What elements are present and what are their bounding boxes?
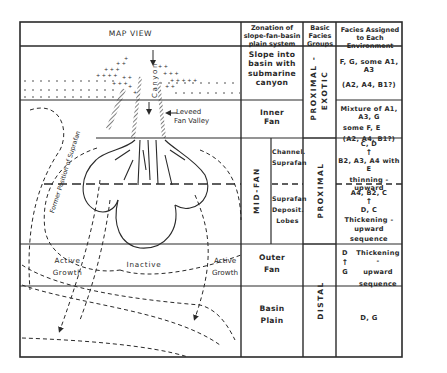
svg-text:+: + (133, 89, 137, 95)
svg-text:+: + (124, 55, 128, 61)
up-arrow-icon: ↑ (337, 197, 401, 206)
inactive-label: Inactive (124, 260, 164, 269)
svg-text:+ +: + + (122, 74, 132, 80)
facies-channel-top: C, D (337, 140, 401, 148)
zone-inner-fan-line: Fan (243, 117, 301, 126)
zone-lobes-line: Lobes (272, 217, 303, 225)
zone-basin-line: Basin (243, 304, 301, 313)
zone-inner-fan-line: Inner (243, 108, 301, 117)
facies-inner-line: Mixture of A1, A3, G (337, 105, 401, 121)
facies-lobes-mid: D, C (337, 206, 401, 214)
facies-inner-fan: Mixture of A1, A3, G some F, E (A2, A4, … (337, 105, 401, 143)
group-proximal-exotic-1: PROXIMAL - (309, 61, 318, 121)
zone-slope: Slope into basin with submarine canyon (243, 50, 301, 88)
facies-basin: D, G (337, 314, 401, 322)
zone-slope-line: submarine (243, 69, 301, 78)
facies-slope: F, G, some A1, A3 (A2, A4, B1?) (337, 58, 401, 89)
facies-outer-text: sequence (355, 280, 401, 288)
facies-lobes-bottom: Thickening - upward (337, 216, 401, 232)
facies-inner-line: some F, E (337, 124, 401, 132)
facies-lobes-top: A4, B2, C (337, 189, 401, 197)
svg-text:+ + +: + + + (112, 80, 128, 86)
canyon-label: Canyon (151, 60, 159, 100)
facies-channel: C, D ↑ B2, A3, A4 with E thinning - upwa… (337, 140, 401, 192)
facies-outer-letter: D (339, 249, 351, 257)
group-proximal: PROXIMAL (316, 161, 325, 221)
up-arrow-icon: ↑ (339, 257, 351, 268)
facies-outer-left: D ↑ G (339, 249, 351, 276)
zone-outer-fan: Outer Fan (243, 253, 301, 275)
zone-lobes-line: Deposit. (272, 206, 303, 214)
facies-lobes-bottom: sequence (337, 235, 401, 243)
group-distal: DISTAL (316, 271, 325, 331)
active-growth-right-2: Growth (209, 268, 241, 277)
facies-outer-text: Thickening - (355, 249, 401, 265)
svg-text:+: + (128, 83, 132, 89)
zone-suprafan-lobes: Suprafan Deposit. Lobes (272, 195, 303, 225)
facies-assigned-heading: Facies Assigned to Each Environment (340, 26, 400, 50)
facies-groups-heading: Basic Facies Groups (304, 24, 336, 48)
up-arrow-icon: ↑ (337, 148, 401, 157)
map-view-heading: MAP VIEW (20, 29, 241, 38)
zone-lobes-line: Suprafan (272, 195, 303, 203)
facies-outer-letter: G (339, 268, 351, 276)
svg-text:+ + + +: + + + + (96, 72, 118, 78)
svg-text:+ + +: + + + (163, 70, 179, 76)
zonation-heading: Zonation of slope-fan-basin plain system (243, 24, 301, 48)
svg-text:+ + +: + + + (104, 66, 120, 72)
zone-slope-line: basin with (243, 59, 301, 68)
zone-inner-fan: Inner Fan (243, 108, 301, 127)
zone-slope-line: canyon (243, 78, 301, 87)
zone-basin-line: Plain (243, 316, 301, 325)
facies-lobes: A4, B2, C ↑ D, C Thickening - upward seq… (337, 189, 401, 243)
facies-slope-line: (A2, A4, B1?) (337, 81, 401, 89)
fan-valley-label: Fan Valley (174, 117, 229, 126)
zone-mid-fan: MID-FAN (252, 161, 261, 221)
zone-outer-line: Fan (243, 265, 301, 274)
active-growth-right-1: Active (209, 256, 241, 265)
zone-outer-line: Outer (243, 253, 301, 262)
active-growth-left-1: Active (50, 256, 85, 265)
facies-outer-right: Thickening - upward sequence (355, 249, 401, 288)
facies-outer-text: upward (355, 268, 401, 276)
zone-channel-suprafan: Channel. Suprafan (272, 148, 303, 167)
leveed-label: Leveed (176, 108, 211, 117)
svg-text:+ +: + + (158, 63, 168, 69)
svg-text:+ +: + + (165, 83, 175, 89)
group-proximal-exotic-2: EXOTIC (320, 61, 329, 121)
zone-channel-line: Channel. (272, 148, 303, 156)
facies-channel-mid: B2, A3, A4 with E (337, 157, 401, 173)
zone-basin-plain: Basin Plain (243, 304, 301, 326)
active-growth-left-2: Growth (50, 268, 85, 277)
zone-slope-line: Slope into (243, 50, 301, 59)
zone-channel-line: Suprafan (272, 159, 303, 167)
facies-slope-line: F, G, some A1, A3 (337, 58, 401, 75)
